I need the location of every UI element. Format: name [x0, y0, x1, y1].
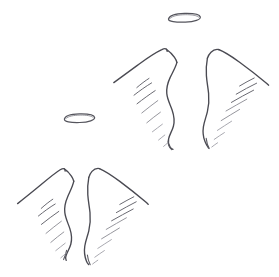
upper-halo	[168, 13, 200, 22]
lower-right-wing	[84, 168, 148, 264]
lower-left-wing	[18, 169, 74, 261]
upper-left-wing	[114, 49, 177, 150]
upper-right-wing	[203, 49, 269, 148]
drawing-canvas	[0, 0, 279, 277]
lower-halo	[64, 114, 94, 123]
angel-wings-sketch	[0, 0, 279, 277]
